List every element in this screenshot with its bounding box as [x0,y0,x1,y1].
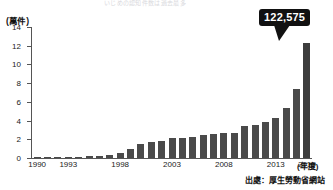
y-tick-label-12: 12 [12,41,21,50]
y-tick-4: 4 [27,121,31,122]
bar-2007 [210,134,217,158]
bar-2001 [148,142,155,158]
bar-1999 [127,149,134,158]
bar-slot [53,27,63,158]
bar-slot [157,27,167,158]
y-tick-8: 8 [27,83,31,84]
bar-1992 [54,157,61,158]
bar-slot [177,27,187,158]
x-tick-label-2008: 2008 [215,160,233,169]
y-tick-label-6: 6 [17,97,21,106]
bar-1994 [75,157,82,158]
x-axis-unit-label: (年度) [297,160,318,171]
bar-2016 [303,43,310,158]
chart-container: いじめの認知件数は過去最多 (萬件) 02468101214 199019931… [0,0,333,190]
y-tick-label-2: 2 [17,135,21,144]
bar-1993 [65,157,72,158]
highlight-callout-pointer [274,25,290,41]
bar-2010 [241,126,248,158]
bar-2011 [252,125,259,158]
x-tick-label-1993: 1993 [59,160,77,169]
y-tick-0: 0 [27,158,31,159]
y-tick-label-14: 14 [12,23,21,32]
bar-2008 [220,133,227,158]
bar-1998 [117,153,124,158]
bar-2005 [189,137,196,158]
bar-slot [281,27,291,158]
plot-area: 02468101214 [31,27,312,159]
bar-slot [136,27,146,158]
bar-2004 [179,138,186,158]
bar-slot [208,27,218,158]
y-tick-14: 14 [27,27,31,28]
bar-2015 [293,89,300,158]
bar-slot [115,27,125,158]
y-tick-10: 10 [27,64,31,65]
bar-2006 [200,135,207,158]
x-tick-label-2003: 2003 [163,160,181,169]
bar-slot [229,27,239,158]
bar-slot [63,27,73,158]
bar-series [32,27,312,158]
bar-slot [302,27,312,158]
bar-1990 [34,157,41,158]
bar-slot [74,27,84,158]
y-tick-label-8: 8 [17,79,21,88]
y-tick-label-0: 0 [17,154,21,163]
bar-2003 [169,138,176,158]
x-axis-line [31,158,312,159]
x-axis-labels: 1990199319982003200820132016 [31,160,312,172]
bar-2013 [272,118,279,158]
bar-slot [84,27,94,158]
y-tick-6: 6 [27,102,31,103]
bar-slot [260,27,270,158]
bar-2012 [262,122,269,158]
source-note: 出處：厚生勞動省網站 [245,174,325,185]
bar-2002 [158,141,165,158]
y-tick-2: 2 [27,139,31,140]
bar-slot [32,27,42,158]
bar-slot [198,27,208,158]
bar-slot [42,27,52,158]
y-tick-label-4: 4 [17,116,21,125]
bar-slot [271,27,281,158]
bar-1996 [96,156,103,158]
bar-1995 [86,156,93,158]
bar-slot [240,27,250,158]
bar-slot [250,27,260,158]
bar-1991 [44,157,51,158]
bar-slot [188,27,198,158]
bar-slot [105,27,115,158]
bar-slot [219,27,229,158]
x-tick-label-1998: 1998 [111,160,129,169]
x-tick-label-1990: 1990 [28,160,46,169]
y-tick-12: 12 [27,46,31,47]
bar-slot [125,27,135,158]
bar-slot [94,27,104,158]
cut-off-headline: いじめの認知件数は過去最多 [104,0,304,7]
y-tick-label-10: 10 [12,60,21,69]
bar-slot [167,27,177,158]
bar-1997 [106,155,113,158]
x-tick-label-2013: 2013 [267,160,285,169]
bar-2014 [283,108,290,158]
highlight-callout-label: 122,575 [259,9,310,26]
bar-2000 [137,144,144,158]
bar-2009 [231,133,238,158]
bar-slot [291,27,301,158]
bar-slot [146,27,156,158]
